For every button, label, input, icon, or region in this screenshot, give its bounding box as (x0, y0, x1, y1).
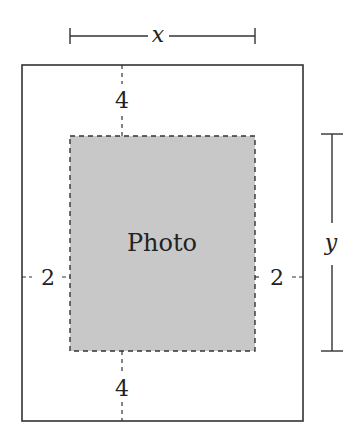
frame-diagram: 4 4 2 2 Photo x y (0, 0, 359, 442)
top-margin-label: 4 (115, 88, 129, 113)
y-dimension-label: y (324, 230, 338, 255)
bottom-margin-label: 4 (115, 376, 129, 401)
left-margin-label: 2 (41, 265, 55, 290)
right-margin-label: 2 (270, 265, 284, 290)
x-dimension-label: x (152, 22, 165, 47)
photo-label: Photo (127, 229, 197, 257)
